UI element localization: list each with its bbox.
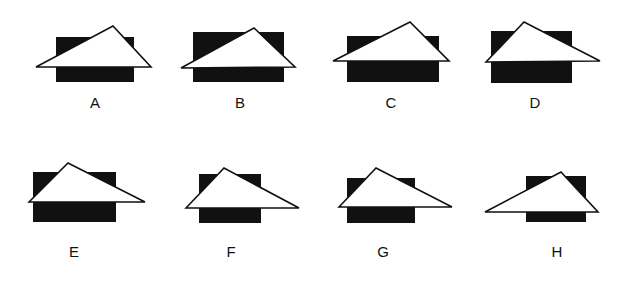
figure-label: G xyxy=(377,243,389,260)
figure-c: C xyxy=(333,22,449,111)
figure-label: B xyxy=(235,94,245,111)
figure-a: A xyxy=(36,26,151,111)
figure-e: E xyxy=(29,163,145,260)
figure-h: H xyxy=(485,172,598,260)
figure-label: C xyxy=(386,94,397,111)
figure-b: B xyxy=(181,28,295,111)
figure-panel: A B C D E F G H xyxy=(0,0,637,291)
figure-label: F xyxy=(226,243,235,260)
figure-label: E xyxy=(69,243,79,260)
figure-f: F xyxy=(186,168,299,260)
figure-g: G xyxy=(339,168,452,260)
figure-label: D xyxy=(530,94,541,111)
figure-d: D xyxy=(486,22,600,111)
figure-label: H xyxy=(552,243,563,260)
figure-label: A xyxy=(90,94,100,111)
